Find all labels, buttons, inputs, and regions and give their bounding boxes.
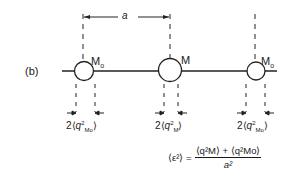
strain-formula: ⟨ε²⟩ = ⟨q²M⟩ + ⟨q²Mo⟩ a²: [168, 145, 261, 170]
amplitude-bounds-left: [76, 84, 95, 112]
amplitude-arrows-left: [67, 111, 104, 115]
formula-lhs: ⟨ε²⟩ =: [168, 152, 192, 163]
amplitude-bounds-center: [164, 84, 178, 112]
atom-m-center: [159, 59, 182, 82]
node-label-mo-right: Mo: [261, 56, 274, 69]
amplitude-arrows-center: [155, 111, 187, 115]
node-label-mo-left: Mo: [91, 56, 104, 69]
spacing-label: a: [122, 11, 128, 21]
formula-numerator: ⟨q²M⟩ + ⟨q²Mo⟩: [195, 145, 262, 158]
part-label: (b): [25, 66, 38, 77]
arrowhead-left: [84, 15, 90, 19]
formula-denominator: a²: [224, 158, 232, 170]
amplitude-arrows-right: [237, 111, 274, 115]
formula-fraction: ⟨q²M⟩ + ⟨q²Mo⟩ a²: [195, 145, 262, 170]
amplitude-label-center: 2⟨q2M⟩: [155, 120, 182, 133]
amplitude-label-left: 2⟨q2Mo⟩: [66, 120, 97, 133]
arrowhead-right: [163, 15, 169, 19]
amplitude-bounds-right: [246, 84, 265, 112]
node-label-m-center: M: [181, 55, 190, 66]
amplitude-label-right: 2⟨q2Mo⟩: [237, 120, 268, 133]
